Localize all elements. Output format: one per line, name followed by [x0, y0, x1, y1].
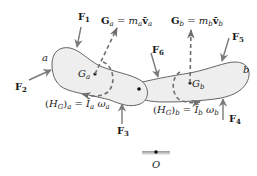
force-arrow-f5 — [222, 38, 229, 61]
force-label-f1: F1 — [78, 11, 90, 24]
force-label-f3: F3 — [117, 125, 129, 138]
body-b-label: b — [243, 64, 249, 75]
angular-momentum-eq-a: (HG)a = Īa ωa — [45, 98, 110, 111]
force-arrow-f1 — [77, 27, 81, 47]
origin-label: O — [152, 159, 160, 170]
angular-momentum-eq-b: (HG)b = Īb ωb — [153, 104, 219, 117]
force-label-f6: F6 — [152, 44, 164, 57]
origin-point — [154, 150, 158, 154]
force-label-f5: F5 — [232, 31, 244, 44]
momentum-vector-b — [190, 30, 191, 83]
momentum-vector-a — [95, 28, 117, 74]
momentum-eq-b: Gb = mbv̄b — [171, 15, 224, 28]
force-arrow-f2 — [29, 70, 51, 80]
body-a-outline — [52, 48, 148, 106]
two-body-momentum-diagram: F1 F2 F3 F4 F5 F6 a b Ga Gb Ga = mav̄a G… — [0, 0, 257, 176]
joint-pin — [137, 87, 141, 91]
momentum-eq-a: Ga = mav̄a — [101, 15, 152, 28]
body-a-label: a — [42, 52, 48, 63]
force-label-f4: F4 — [229, 113, 241, 126]
force-label-f2: F2 — [15, 81, 27, 94]
force-arrow-f6 — [151, 53, 158, 77]
